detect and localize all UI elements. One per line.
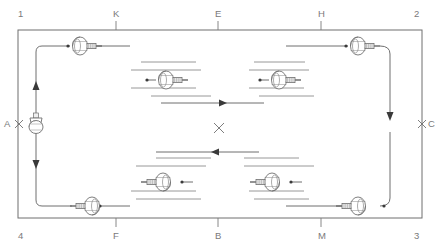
- pipe-left-riser-lower: [36, 140, 72, 206]
- schematic-stage: 1 K E H 2 4 F B M 3 A C: [0, 0, 440, 252]
- grid-label-top-e: E: [215, 9, 222, 19]
- grid-label-bottom-b: B: [215, 231, 222, 241]
- flow-arrows: [33, 81, 394, 169]
- grid-label-top-h: H: [318, 9, 325, 19]
- flow-arrow-center-left-icon: [211, 149, 219, 156]
- connection-dots: [66, 44, 385, 207]
- pipe-left-riser-upper: [36, 46, 70, 108]
- pipe-right-riser-lower: [380, 132, 390, 206]
- grid-label-top-k: K: [113, 9, 120, 19]
- center-flow-lines: [156, 103, 264, 152]
- valve-inner-lower-right: [250, 173, 280, 191]
- boundary-rect: [18, 30, 422, 218]
- pipe-right-riser-upper: [380, 46, 390, 116]
- valve-bottom-left: [70, 197, 100, 215]
- mark-a-icon: [15, 120, 23, 128]
- grid-label-top-2: 2: [414, 9, 419, 19]
- valve-inner-lower-left: [141, 173, 171, 191]
- schematic-canvas: [0, 0, 440, 252]
- grid-label-left-a: A: [4, 119, 11, 129]
- valve-top-right: [351, 37, 381, 55]
- grid-label-bottom-4: 4: [18, 231, 23, 241]
- mark-center-icon: [214, 123, 224, 133]
- grid-ticks: [116, 21, 321, 227]
- grid-label-right-c: C: [428, 119, 435, 129]
- grid-label-bottom-m: M: [318, 231, 326, 241]
- grid-label-top-1: 1: [18, 9, 23, 19]
- grid-label-bottom-3: 3: [414, 231, 419, 241]
- valve-bottom-right: [336, 197, 366, 215]
- grid-label-bottom-f: F: [113, 231, 119, 241]
- flow-arrow-riser-up-icon: [33, 81, 40, 90]
- valve-top-left: [73, 37, 103, 55]
- reference-marks: [15, 120, 426, 133]
- valve-inner-upper-left: [159, 71, 189, 89]
- piping-network: [36, 46, 390, 206]
- flow-arrow-center-right-icon: [219, 100, 227, 107]
- flow-arrow-right-down-icon: [387, 112, 394, 121]
- flow-arrow-riser-down-icon: [33, 160, 40, 169]
- pump-assembly-a: [29, 108, 43, 140]
- valve-inner-upper-right: [272, 71, 302, 89]
